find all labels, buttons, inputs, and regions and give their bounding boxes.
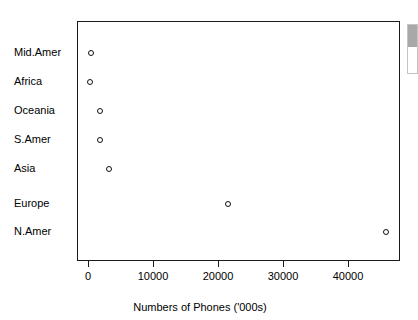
x-axis-title: Numbers of Phones ('000s) — [0, 300, 400, 314]
x-tick-label-40000: 40000 — [333, 270, 364, 283]
category-label-mid-amer: Mid.Amer — [14, 46, 61, 58]
x-tick-label-10000: 10000 — [138, 270, 169, 283]
dot-chart: Mid.AmerAfricaOceaniaS.AmerAsiaEuropeN.A… — [0, 0, 418, 320]
data-point-n-amer — [383, 229, 389, 235]
data-point-s-amer — [97, 137, 103, 143]
category-label-europe: Europe — [14, 197, 49, 209]
x-tick-mark-30000 — [283, 261, 284, 267]
data-point-mid-amer — [88, 50, 94, 56]
category-label-asia: Asia — [14, 162, 35, 174]
x-tick-mark-40000 — [348, 261, 349, 267]
x-tick-mark-0 — [88, 261, 89, 267]
vertical-scrollbar-thumb[interactable] — [408, 25, 417, 47]
plot-panel — [77, 21, 400, 261]
x-tick-mark-20000 — [218, 261, 219, 267]
data-point-africa — [87, 79, 93, 85]
category-label-africa: Africa — [14, 75, 42, 87]
x-tick-label-0: 0 — [85, 270, 91, 283]
category-axis-labels: Mid.AmerAfricaOceaniaS.AmerAsiaEuropeN.A… — [0, 0, 71, 320]
category-label-oceania: Oceania — [14, 104, 55, 116]
x-tick-label-20000: 20000 — [203, 270, 234, 283]
x-tick-mark-10000 — [153, 261, 154, 267]
data-point-asia — [106, 166, 112, 172]
data-point-europe — [225, 201, 231, 207]
category-label-s-amer: S.Amer — [14, 133, 51, 145]
category-label-n-amer: N.Amer — [14, 225, 51, 237]
data-point-oceania — [97, 108, 103, 114]
x-tick-label-30000: 30000 — [268, 270, 299, 283]
